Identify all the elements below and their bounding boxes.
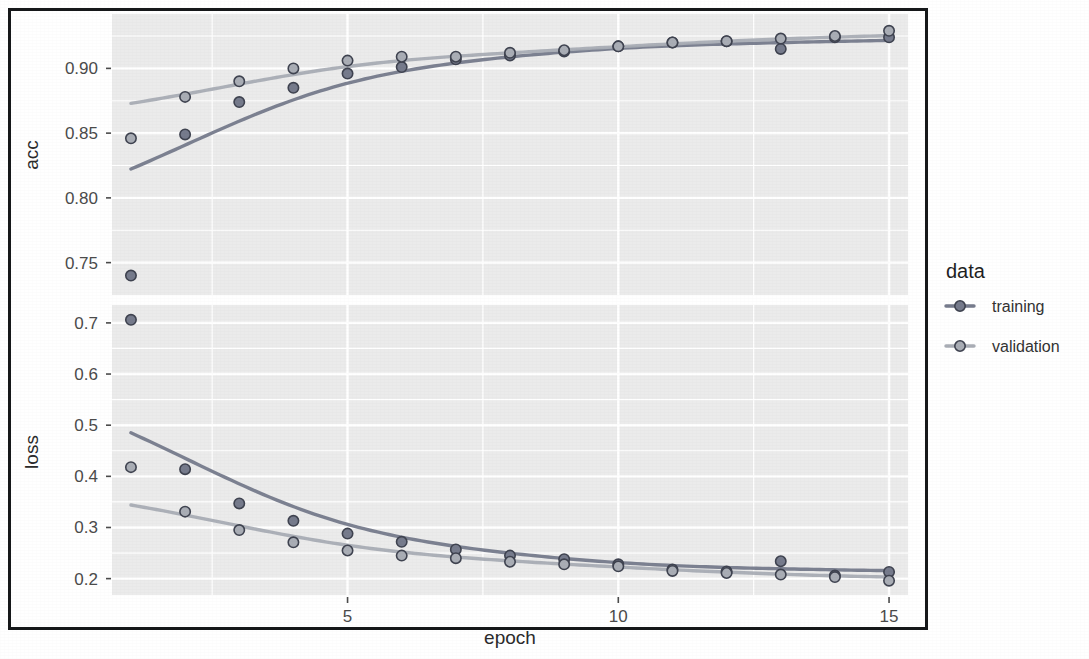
legend-items[interactable]: trainingvalidation [944, 290, 1060, 362]
facet-acc: 0.750.800.850.90 acc [21, 14, 908, 295]
loss-y-axis-ticks: 0.20.30.40.50.60.7 [74, 314, 111, 589]
data-point-training [397, 62, 407, 72]
data-point-training [776, 556, 786, 566]
data-point-validation [884, 26, 894, 36]
data-point-validation [288, 537, 298, 547]
acc-axis-title: acc [21, 140, 42, 170]
data-point-training [126, 270, 136, 280]
data-point-validation [126, 462, 136, 472]
data-point-validation [884, 575, 894, 585]
facet-loss: 0.20.30.40.50.60.7 loss [21, 305, 908, 595]
x-axis-title: epoch [484, 627, 536, 648]
legend: data trainingvalidation [944, 260, 1060, 362]
data-point-validation [830, 31, 840, 41]
y-tick-label: 0.90 [65, 59, 98, 78]
data-point-validation [776, 33, 786, 43]
data-point-training [234, 498, 244, 508]
data-point-validation [397, 52, 407, 62]
data-point-validation [451, 52, 461, 62]
data-point-validation [126, 133, 136, 143]
y-tick-label: 0.7 [74, 314, 98, 333]
data-point-validation [559, 45, 569, 55]
figure-root: 0.750.800.850.90 acc 0.20.30.40.50.60.7 … [0, 0, 1089, 659]
y-tick-label: 0.2 [74, 570, 98, 589]
legend-item-label: validation [992, 338, 1060, 355]
data-point-training [288, 83, 298, 93]
data-point-validation [613, 41, 623, 51]
data-point-validation [830, 572, 840, 582]
y-tick-label: 0.85 [65, 124, 98, 143]
data-point-training [126, 315, 136, 325]
data-point-training [342, 528, 352, 538]
data-point-validation [451, 553, 461, 563]
data-point-training [180, 129, 190, 139]
data-point-validation [613, 561, 623, 571]
acc-y-axis-ticks: 0.750.800.850.90 [65, 59, 111, 272]
data-point-training [397, 537, 407, 547]
legend-item-training[interactable]: training [944, 290, 1044, 322]
data-point-validation [342, 545, 352, 555]
data-point-validation [721, 568, 731, 578]
data-point-training [288, 516, 298, 526]
loss-axis-title: loss [21, 435, 42, 469]
y-tick-label: 0.5 [74, 416, 98, 435]
data-point-validation [721, 36, 731, 46]
data-point-validation [559, 559, 569, 569]
x-axis: 51015 [343, 597, 899, 626]
data-point-training [342, 68, 352, 78]
x-tick-label: 10 [609, 607, 628, 626]
data-point-validation [667, 566, 677, 576]
data-point-validation [342, 55, 352, 65]
legend-key-point [955, 301, 965, 311]
x-tick-label: 5 [343, 607, 352, 626]
data-point-validation [234, 525, 244, 535]
data-point-training [776, 44, 786, 54]
data-point-validation [180, 506, 190, 516]
legend-item-validation[interactable]: validation [944, 330, 1060, 362]
data-point-training [234, 97, 244, 107]
y-tick-label: 0.80 [65, 189, 98, 208]
data-point-validation [667, 37, 677, 47]
data-point-validation [288, 63, 298, 73]
data-point-validation [505, 48, 515, 58]
y-tick-label: 0.4 [74, 467, 98, 486]
data-point-validation [180, 92, 190, 102]
legend-title: data [946, 260, 986, 282]
data-point-validation [776, 569, 786, 579]
plot-area: 0.750.800.850.90 acc 0.20.30.40.50.60.7 … [0, 0, 1089, 659]
legend-item-label: training [992, 298, 1044, 315]
y-tick-label: 0.75 [65, 254, 98, 273]
y-tick-label: 0.6 [74, 365, 98, 384]
data-point-validation [397, 550, 407, 560]
x-tick-label: 15 [880, 607, 899, 626]
data-point-validation [234, 76, 244, 86]
data-point-training [180, 464, 190, 474]
data-point-validation [505, 557, 515, 567]
y-tick-label: 0.3 [74, 518, 98, 537]
legend-key-point [955, 341, 965, 351]
